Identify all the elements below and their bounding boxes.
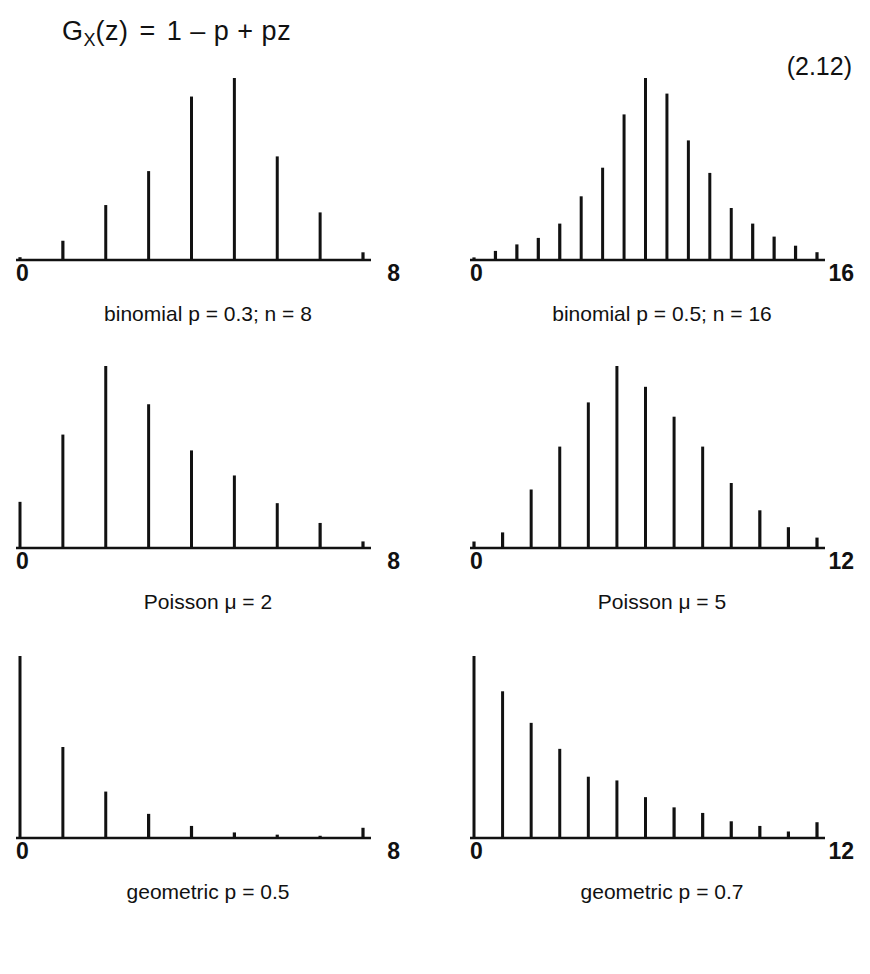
x-axis-end-tick-label: 8 — [387, 840, 400, 863]
stem-plot-geometric-p05 — [8, 648, 408, 844]
x-axis-start-tick-label: 0 — [470, 550, 483, 573]
x-axis-end-tick-label: 12 — [828, 550, 854, 573]
x-axis-start-tick-label: 0 — [470, 840, 483, 863]
panel-caption-geometric-p07: geometric p = 0.7 — [462, 880, 862, 904]
plot-area-binomial-p03-n8 — [8, 70, 408, 266]
x-axis-end-tick-label: 16 — [828, 262, 854, 285]
plot-area-geometric-p05 — [8, 648, 408, 844]
stem-plot-poisson-mu5 — [462, 358, 862, 554]
axis-labels-poisson-mu2: 0 8 — [8, 550, 408, 580]
stem-plot-binomial-p03-n8 — [8, 70, 408, 266]
x-axis-end-tick-label: 12 — [828, 840, 854, 863]
axis-labels-binomial-p05-n16: 0 16 — [462, 262, 862, 292]
plot-area-poisson-mu2 — [8, 358, 408, 554]
stem-plot-poisson-mu2 — [8, 358, 408, 554]
distribution-panel-grid: 0 8 binomial p = 0.3; n = 8 0 16 binomia… — [0, 0, 870, 974]
x-axis-end-tick-label: 8 — [387, 262, 400, 285]
x-axis-end-tick-label: 8 — [387, 550, 400, 573]
panel-caption-binomial-p03-n8: binomial p = 0.3; n = 8 — [8, 302, 408, 326]
x-axis-start-tick-label: 0 — [16, 840, 29, 863]
axis-labels-binomial-p03-n8: 0 8 — [8, 262, 408, 292]
axis-labels-geometric-p05: 0 8 — [8, 840, 408, 870]
axis-labels-geometric-p07: 0 12 — [462, 840, 862, 870]
panel-geometric-p05: 0 8 geometric p = 0.5 — [8, 648, 408, 916]
stem-plot-binomial-p05-n16 — [462, 70, 862, 266]
panel-poisson-mu5: 0 12 Poisson μ = 5 — [462, 358, 862, 626]
plot-area-poisson-mu5 — [462, 358, 862, 554]
panel-binomial-p05-n16: 0 16 binomial p = 0.5; n = 16 — [462, 70, 862, 338]
panel-binomial-p03-n8: 0 8 binomial p = 0.3; n = 8 — [8, 70, 408, 338]
panel-geometric-p07: 0 12 geometric p = 0.7 — [462, 648, 862, 916]
plot-area-geometric-p07 — [462, 648, 862, 844]
panel-caption-binomial-p05-n16: binomial p = 0.5; n = 16 — [462, 302, 862, 326]
panel-caption-poisson-mu2: Poisson μ = 2 — [8, 590, 408, 614]
x-axis-start-tick-label: 0 — [470, 262, 483, 285]
panel-caption-poisson-mu5: Poisson μ = 5 — [462, 590, 862, 614]
plot-area-binomial-p05-n16 — [462, 70, 862, 266]
panel-poisson-mu2: 0 8 Poisson μ = 2 — [8, 358, 408, 626]
panel-caption-geometric-p05: geometric p = 0.5 — [8, 880, 408, 904]
axis-labels-poisson-mu5: 0 12 — [462, 550, 862, 580]
x-axis-start-tick-label: 0 — [16, 550, 29, 573]
stem-plot-geometric-p07 — [462, 648, 862, 844]
x-axis-start-tick-label: 0 — [16, 262, 29, 285]
